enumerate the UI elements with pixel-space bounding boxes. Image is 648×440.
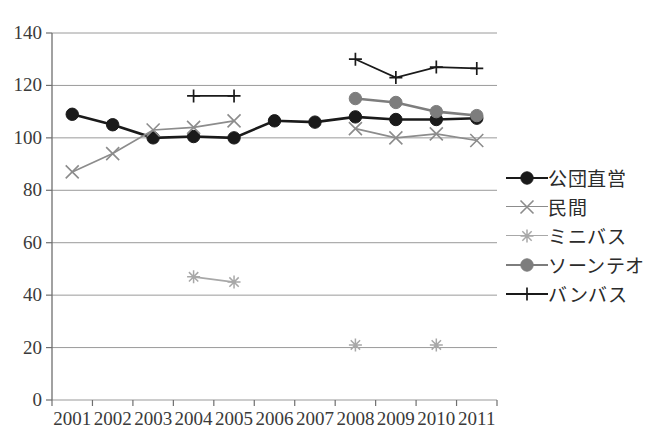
legend-item-label: ソーンテオ	[548, 251, 645, 278]
line-chart: 140120100806040200 200120022003200420052…	[0, 0, 648, 440]
data-point	[470, 62, 483, 75]
legend-marker-icon	[506, 254, 548, 276]
chart-legend: 公団直営民間ミニバスソーンテオバンバス	[506, 163, 646, 308]
legend-item-3[interactable]: ソーンテオ	[506, 250, 646, 279]
y-tick-label: 120	[0, 75, 42, 94]
data-point	[106, 147, 119, 160]
data-point	[471, 109, 483, 121]
axis-ticks	[46, 33, 497, 406]
data-point	[349, 122, 362, 135]
data-point	[228, 89, 241, 102]
legend-marker-icon	[506, 225, 548, 247]
y-tick-label: 80	[0, 180, 42, 199]
data-point	[390, 113, 402, 125]
series-line	[194, 277, 234, 282]
legend-marker-icon	[506, 283, 548, 305]
data-point	[521, 229, 534, 242]
y-tick-label: 140	[0, 23, 42, 42]
y-tick-label: 0	[0, 390, 42, 409]
series-公団直営	[66, 108, 483, 144]
legend-item-4[interactable]: バンバス	[506, 279, 646, 308]
y-tick-label: 100	[0, 128, 42, 147]
legend-marker-icon	[506, 167, 548, 189]
legend-item-label: 民間	[548, 193, 587, 220]
data-point	[66, 165, 79, 178]
data-point	[521, 287, 534, 300]
data-point	[228, 132, 240, 144]
data-point	[228, 276, 241, 289]
legend-item-label: バンバス	[548, 280, 627, 307]
legend-item-1[interactable]: 民間	[506, 192, 646, 221]
data-point	[389, 71, 402, 84]
data-point	[349, 92, 361, 104]
data-point	[349, 111, 361, 123]
legend-item-label: 公団直営	[548, 164, 626, 191]
data-point	[390, 96, 402, 108]
data-point	[66, 108, 78, 120]
data-point	[187, 89, 200, 102]
data-point	[268, 115, 280, 127]
series-ミニバス	[187, 270, 443, 351]
legend-item-0[interactable]: 公団直営	[506, 163, 646, 192]
y-tick-label: 40	[0, 285, 42, 304]
series-line	[355, 129, 476, 141]
data-point	[430, 61, 443, 74]
data-point	[106, 119, 118, 131]
data-point	[430, 338, 443, 351]
data-point	[521, 171, 533, 183]
series-line	[355, 99, 476, 116]
y-tick-label: 20	[0, 338, 42, 357]
data-point	[521, 200, 534, 213]
legend-marker-icon	[506, 196, 548, 218]
x-tick-label: 2011	[451, 409, 503, 428]
series-line	[72, 121, 234, 172]
data-point	[309, 116, 321, 128]
series-バンバス	[187, 53, 483, 103]
data-point	[187, 270, 200, 283]
data-point	[349, 53, 362, 66]
data-point	[349, 338, 362, 351]
data-point	[430, 105, 442, 117]
series-line	[355, 59, 476, 77]
y-tick-label: 60	[0, 233, 42, 252]
data-point	[521, 258, 533, 270]
data-series-layer	[66, 53, 484, 352]
legend-item-2[interactable]: ミニバス	[506, 221, 646, 250]
legend-item-label: ミニバス	[548, 222, 626, 249]
